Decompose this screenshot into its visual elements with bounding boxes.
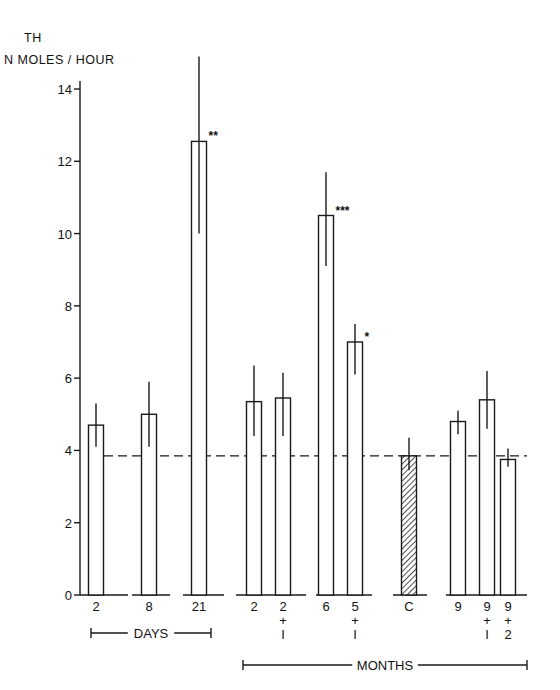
bar-chart: TH N MOLES / HOUR 02468101214 ****** 282… [0, 0, 560, 690]
y-tick-label: 14 [58, 82, 72, 97]
x-tick-label: + [504, 613, 512, 628]
y-axis: 02468101214 [58, 81, 80, 603]
bar: ** [192, 56, 219, 595]
significance-marker: ** [209, 129, 219, 143]
bar: *** [319, 172, 350, 595]
group-bracket-label: DAYS [134, 626, 169, 641]
group-brackets: DAYSMONTHS [91, 626, 527, 673]
bar [480, 371, 495, 595]
x-tick-label: 2 [92, 599, 99, 614]
bar [89, 403, 104, 595]
y-tick-label: 2 [65, 516, 72, 531]
x-tick-label: 2 [250, 599, 257, 614]
x-tick-label: + [483, 613, 491, 628]
x-tick-label: + [279, 613, 287, 628]
x-tick-label: 5 [351, 599, 358, 614]
group-bracket-label: MONTHS [357, 658, 414, 673]
bar [247, 365, 262, 595]
x-tick-label: I [281, 627, 285, 642]
y-tick-label: 12 [58, 154, 72, 169]
y-tick-label: 0 [65, 588, 72, 603]
y-tick-label: 10 [58, 227, 72, 242]
x-tick-label: I [485, 627, 489, 642]
bar: * [348, 324, 370, 595]
y-tick-label: 8 [65, 299, 72, 314]
bar [402, 438, 417, 595]
bar [501, 449, 516, 595]
y-tick-label: 6 [65, 371, 72, 386]
x-tick-label: 2 [279, 599, 286, 614]
x-tick-label: 8 [145, 599, 152, 614]
x-tick-label: 2 [504, 627, 511, 642]
significance-marker: * [365, 330, 370, 344]
significance-marker: *** [336, 204, 350, 218]
bar [451, 411, 466, 595]
x-tick-label: 21 [192, 599, 206, 614]
x-tick-label: 9 [454, 599, 461, 614]
y-axis-title-line2: N MOLES / HOUR [4, 53, 115, 67]
x-tick-label: I [353, 627, 357, 642]
x-tick-label: C [404, 599, 413, 614]
bars: ****** [89, 56, 516, 595]
bar [142, 382, 157, 595]
x-tick-label: 6 [322, 599, 329, 614]
x-tick-label: + [351, 613, 359, 628]
bar [276, 373, 291, 595]
y-axis-title-line1: TH [24, 31, 42, 45]
x-tick-label: 9 [483, 599, 490, 614]
x-tick-label: 9 [504, 599, 511, 614]
y-tick-label: 4 [65, 443, 72, 458]
